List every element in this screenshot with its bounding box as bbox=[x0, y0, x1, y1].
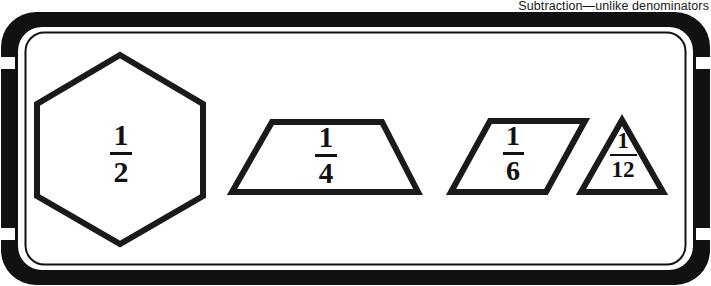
page-root: Subtraction—unlike denominators 1 2 1 4 … bbox=[0, 0, 711, 286]
fraction-bar bbox=[610, 154, 637, 156]
fraction-numerator: 1 bbox=[300, 123, 352, 152]
fraction-denominator: 4 bbox=[300, 159, 352, 188]
fraction-numerator: 1 bbox=[95, 120, 147, 150]
fraction-numerator: 1 bbox=[489, 122, 537, 150]
fraction-denominator: 12 bbox=[600, 158, 646, 181]
fraction-numerator: 1 bbox=[600, 129, 646, 152]
fraction-label-one-sixth: 1 6 bbox=[489, 122, 537, 185]
fraction-label-one-half: 1 2 bbox=[95, 120, 147, 187]
fraction-label-one-fourth: 1 4 bbox=[300, 123, 352, 188]
fraction-denominator: 2 bbox=[95, 157, 147, 187]
fraction-label-one-twelfth: 1 12 bbox=[600, 129, 646, 181]
fraction-denominator: 6 bbox=[489, 157, 537, 185]
